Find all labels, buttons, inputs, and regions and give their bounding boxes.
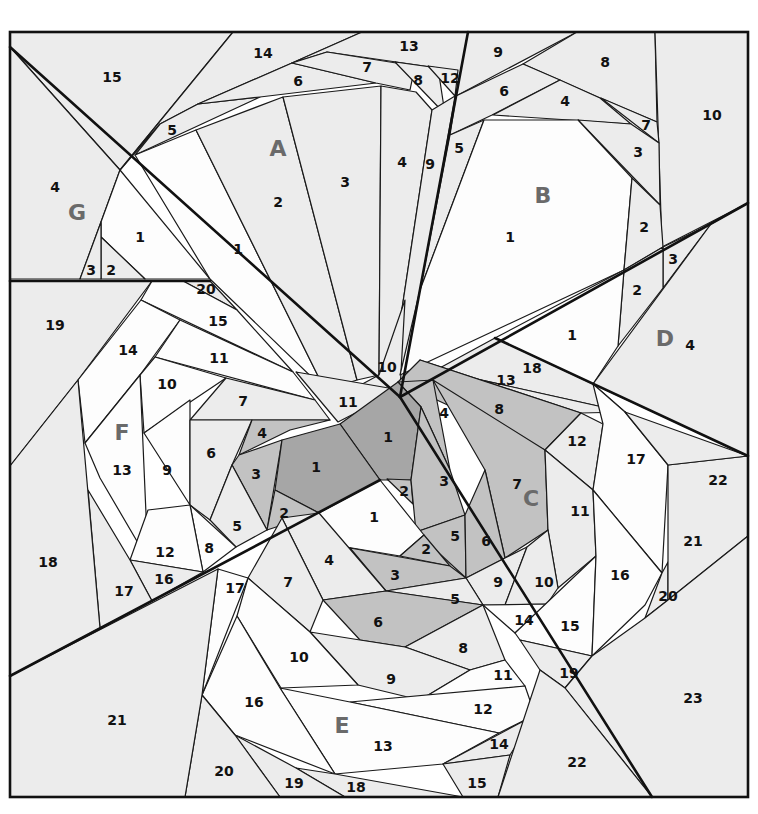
piece-number: 9 [386, 671, 396, 687]
section-label-a: A [269, 136, 286, 161]
piece-number: 11 [209, 350, 228, 366]
piece-number: 7 [238, 393, 248, 409]
piece-number: 3 [340, 174, 350, 190]
piece-number: 16 [610, 567, 629, 583]
section-label-c: C [523, 486, 539, 511]
piece-number: 4 [560, 93, 570, 109]
piece-number: 21 [107, 712, 126, 728]
piece-number: 3 [390, 567, 400, 583]
piece-number: 10 [157, 376, 177, 392]
piece-number: 9 [425, 156, 435, 172]
piece-number: 11 [493, 667, 512, 683]
piece-number: 6 [293, 73, 303, 89]
piece-number: 19 [559, 665, 578, 681]
piece-number: 7 [512, 476, 522, 492]
piece-number: 13 [373, 738, 392, 754]
piece-number: 4 [50, 179, 60, 195]
piece-number: 18 [346, 779, 365, 795]
piece-number: 4 [257, 425, 267, 441]
piece-number: 7 [362, 59, 372, 75]
piece-number: 3 [86, 262, 96, 278]
piece-number: 9 [493, 574, 503, 590]
piece-number: 18 [38, 554, 57, 570]
piece-number: 2 [421, 541, 431, 557]
piece-number: 5 [167, 122, 177, 138]
piece-number: 16 [244, 694, 263, 710]
piece-number: 10 [377, 359, 397, 375]
piece-number: 2 [399, 483, 409, 499]
piece-number: 15 [208, 313, 227, 329]
piece-number: 9 [493, 44, 503, 60]
piece-number: 5 [450, 528, 460, 544]
section-label-d: D [656, 326, 674, 351]
piece-number: 12 [473, 701, 492, 717]
piece-number: 14 [489, 736, 509, 752]
piece-number: 5 [232, 518, 242, 534]
piece-number: 1 [311, 459, 321, 475]
piece-number: 8 [494, 401, 504, 417]
piece-number: 2 [273, 194, 283, 210]
piece-number: 12 [440, 70, 459, 86]
piece-number: 20 [196, 281, 216, 297]
piece-number: 6 [373, 614, 383, 630]
piece-number: 17 [626, 451, 645, 467]
piece-number: 14 [118, 342, 138, 358]
piece-number: 18 [522, 360, 541, 376]
piece-number: 2 [106, 262, 116, 278]
piece-number: 15 [560, 618, 579, 634]
piece-number: 13 [399, 38, 418, 54]
piece-number: 10 [702, 107, 722, 123]
piece-number: 8 [600, 54, 610, 70]
piece-number: 22 [708, 472, 727, 488]
piece-number: 4 [685, 337, 695, 353]
piece-number: 1 [567, 327, 577, 343]
piece-number: 1 [369, 509, 379, 525]
piece-number: 10 [289, 649, 309, 665]
piece-number: 17 [114, 583, 133, 599]
piece-number: 2 [639, 219, 649, 235]
piece-number: 1 [383, 429, 393, 445]
piece-number: 15 [467, 775, 486, 791]
piece-number: 2 [632, 282, 642, 298]
piece-number: 4 [397, 154, 407, 170]
piece-number: 6 [206, 445, 216, 461]
section-label-e: E [334, 713, 349, 738]
piece-number: 13 [496, 372, 515, 388]
piece-number: 9 [162, 462, 172, 478]
piece-number: 7 [641, 117, 651, 133]
piece-number: 23 [683, 690, 702, 706]
piece-number: 1 [135, 229, 145, 245]
piece-number: 12 [155, 544, 174, 560]
piece-number: 15 [102, 69, 121, 85]
piece-number: 11 [570, 503, 589, 519]
section-label-g: G [68, 200, 86, 225]
piece-number: 12 [567, 433, 586, 449]
piece-number: 14 [253, 45, 273, 61]
piece-number: 1 [233, 241, 243, 257]
piece-number: 19 [45, 317, 64, 333]
piece-number: 5 [454, 140, 464, 156]
quilt-pattern-diagram: 1541231413567812123491011981064735123214… [0, 0, 758, 814]
piece-number: 1 [505, 229, 515, 245]
piece-number: 8 [204, 540, 214, 556]
piece-number: 5 [450, 591, 460, 607]
piece-number: 13 [112, 462, 131, 478]
piece-number: 16 [154, 571, 173, 587]
piece-number: 3 [251, 466, 261, 482]
piece-number: 11 [338, 394, 357, 410]
piece-number: 20 [658, 588, 678, 604]
piece-number: 17 [225, 580, 244, 596]
piece-number: 3 [668, 251, 678, 267]
section-label-b: B [535, 183, 552, 208]
piece-number: 22 [567, 754, 586, 770]
piece-number: 6 [499, 83, 509, 99]
piece-number: 10 [534, 574, 554, 590]
piece-number: 4 [439, 405, 449, 421]
piece-number: 6 [481, 533, 491, 549]
piece-number: 8 [458, 640, 468, 656]
section-label-f: F [114, 420, 129, 445]
piece-number: 3 [439, 473, 449, 489]
piece-number: 14 [514, 612, 534, 628]
piece-number: 2 [279, 505, 289, 521]
piece-number: 20 [214, 763, 234, 779]
